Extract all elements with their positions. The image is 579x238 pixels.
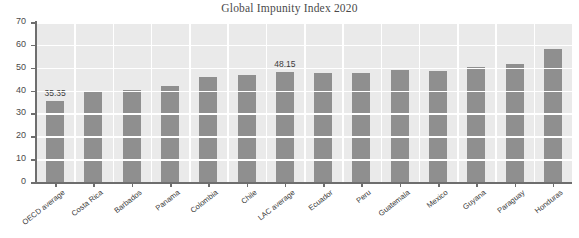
x-axis-tick [132, 183, 134, 187]
bar[interactable] [199, 77, 217, 182]
gridline-vertical [419, 22, 421, 182]
y-axis-tick [31, 68, 36, 70]
y-axis-tick-label: 10 [0, 153, 26, 163]
x-axis-category-label: Paraguay [495, 188, 526, 215]
gridline-vertical [457, 22, 459, 182]
gridline-vertical [495, 22, 497, 182]
y-axis-tick-label: 50 [0, 62, 26, 72]
bar[interactable] [467, 67, 485, 182]
x-axis-labels: OECD averageCosta RicaBarbadosPanamaColo… [36, 188, 572, 238]
y-axis-tick-label: 60 [0, 39, 26, 49]
x-axis-tick [476, 183, 478, 187]
x-axis-tick [515, 183, 517, 187]
x-axis-tick [93, 183, 95, 187]
x-axis-tick [323, 183, 325, 187]
y-axis-tick-label: 40 [0, 85, 26, 95]
x-axis-tick [553, 183, 555, 187]
y-axis-tick [31, 136, 36, 138]
x-axis-category-label: Costa Rica [70, 188, 105, 218]
gridline-vertical [227, 22, 229, 182]
bar[interactable] [506, 64, 524, 182]
gridline-vertical [266, 22, 268, 182]
x-axis-category-label: Mexico [425, 188, 450, 210]
bar[interactable] [314, 73, 332, 182]
bar[interactable] [429, 71, 447, 182]
y-axis-tick [31, 113, 36, 115]
x-axis-tick [170, 183, 172, 187]
x-axis-tick [247, 183, 249, 187]
x-axis-category-label: Guatemala [376, 188, 411, 218]
y-axis-tick [31, 182, 36, 184]
gridline-vertical [151, 22, 153, 182]
gridline-vertical [304, 22, 306, 182]
x-axis-category-label: LAC average [256, 188, 296, 222]
y-axis-tick-label: 30 [0, 107, 26, 117]
y-axis-tick-label: 0 [0, 176, 26, 186]
x-axis-category-label: Peru [355, 188, 373, 205]
x-axis-tick [285, 183, 287, 187]
y-axis-tick [31, 45, 36, 47]
gridline-vertical [342, 22, 344, 182]
bar[interactable] [352, 73, 370, 182]
x-axis-category-label: Barbados [112, 188, 143, 215]
bar[interactable] [276, 72, 294, 182]
y-axis-tick-label: 20 [0, 130, 26, 140]
y-axis-tick [31, 91, 36, 93]
x-axis-line [35, 182, 572, 184]
y-axis-tick [31, 22, 36, 24]
y-axis-tick-label: 70 [0, 16, 26, 26]
gridline-vertical [74, 22, 76, 182]
x-axis-category-label: OECD average [21, 188, 67, 227]
x-axis-tick [361, 183, 363, 187]
gridline-vertical [189, 22, 191, 182]
y-axis-tick [31, 159, 36, 161]
x-axis-tick [208, 183, 210, 187]
x-axis-category-label: Honduras [533, 188, 564, 215]
gridline-vertical [113, 22, 115, 182]
plot-area: 35.3548.15 [36, 22, 572, 182]
x-axis-category-label: Guyana [461, 188, 488, 211]
x-axis-category-label: Panama [154, 188, 182, 213]
gridline-vertical [534, 22, 536, 182]
x-axis-category-label: Colombia [189, 188, 220, 215]
x-axis-tick [438, 183, 440, 187]
x-axis-category-label: Ecuador [307, 188, 335, 213]
chart-figure: Global Impunity Index 2020 35.3548.15 01… [0, 0, 579, 238]
x-axis-category-label: Chile [239, 188, 258, 206]
x-axis-tick [400, 183, 402, 187]
gridline-vertical [381, 22, 383, 182]
bar[interactable] [391, 70, 409, 182]
chart-title: Global Impunity Index 2020 [0, 2, 579, 14]
bar[interactable] [161, 86, 179, 182]
x-axis-tick [55, 183, 57, 187]
